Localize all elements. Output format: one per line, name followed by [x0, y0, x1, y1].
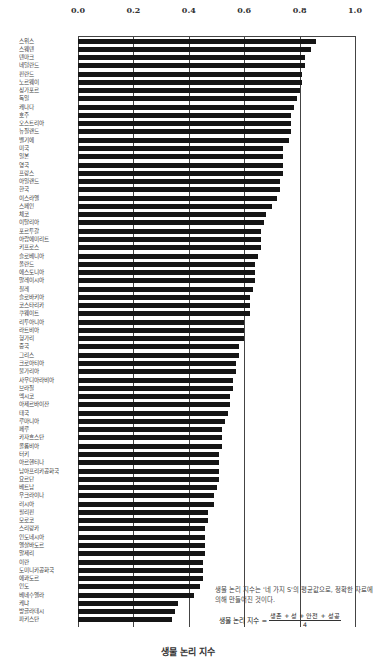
formula-lhs: 생물 논리 지수 = [219, 615, 267, 625]
category-label: 요르단 [0, 475, 74, 483]
category-label: 칠레 [0, 285, 74, 293]
bar [78, 328, 244, 333]
category-label: 말레이시아 [0, 276, 74, 284]
category-label: 캐나다 [0, 103, 74, 111]
bar [78, 80, 302, 85]
category-label: 에스토니아 [0, 268, 74, 276]
bar [78, 320, 244, 325]
category-label: 사우디아라비아 [0, 376, 74, 384]
x-tick-label: 1.0 [348, 5, 362, 15]
x-tick-label: 0.0 [71, 5, 85, 15]
bar [78, 601, 178, 606]
bar [78, 353, 239, 358]
bar [78, 129, 291, 134]
category-label: 스리랑카 [0, 524, 74, 532]
category-label: 알제리 [0, 549, 74, 557]
category-label: 덴마크 [0, 53, 74, 61]
category-label: 스위스 [0, 37, 74, 45]
category-label: 엘살바도르 [0, 541, 74, 549]
bar [78, 485, 217, 490]
category-label: 리투아니아 [0, 318, 74, 326]
bar [78, 229, 261, 234]
bar [78, 220, 264, 225]
category-label: 호주 [0, 111, 74, 119]
bar [78, 560, 203, 565]
bar [78, 146, 283, 151]
category-label: 뉴질랜드 [0, 127, 74, 135]
category-label: 영국 [0, 161, 74, 169]
bar [78, 452, 219, 457]
bar [78, 526, 205, 531]
category-label: 브라질 [0, 384, 74, 392]
category-label: 중국 [0, 342, 74, 350]
category-label: 라트비아 [0, 326, 74, 334]
bar [78, 204, 272, 209]
bar [78, 39, 316, 44]
bar [78, 386, 233, 391]
bar [78, 262, 255, 267]
category-label: 페루 [0, 425, 74, 433]
bar [78, 584, 200, 589]
gridline [300, 36, 301, 627]
bar [78, 278, 255, 283]
category-label: 그리스 [0, 351, 74, 359]
category-label: 오스트리아 [0, 119, 74, 127]
bar [78, 518, 208, 523]
category-label: 포르투갈 [0, 227, 74, 235]
category-label: 멕시코 [0, 392, 74, 400]
category-label: 핀란드 [0, 70, 74, 78]
category-label: 키프로스 [0, 243, 74, 251]
bar [78, 121, 291, 126]
bar [78, 287, 253, 292]
category-label: 에콰도르 [0, 574, 74, 582]
category-label: 코스타리카 [0, 301, 74, 309]
category-label: 쿠웨이트 [0, 309, 74, 317]
formula-fraction: 생존 + 성 + 안전 + 성공 4 [269, 611, 340, 628]
category-label: 콜롬비아 [0, 442, 74, 450]
bar [78, 295, 250, 300]
bar [78, 212, 266, 217]
category-label: 방글라데시 [0, 607, 74, 615]
bar [78, 460, 219, 465]
category-label: 싱가포르 [0, 86, 74, 94]
category-label: 폴란드 [0, 260, 74, 268]
category-label: 불가리아 [0, 367, 74, 375]
category-label: 이란 [0, 558, 74, 566]
bar [78, 196, 277, 201]
x-tick-label: 0.2 [126, 5, 140, 15]
annotation-note: 생물 논리 지수는 '네 가지 S'의 평균값으로, 정확한 자료에 의해 만들… [215, 585, 375, 605]
category-label: 한국 [0, 185, 74, 193]
bar [78, 311, 250, 316]
category-label: 카자흐스탄 [0, 433, 74, 441]
category-label: 태국 [0, 409, 74, 417]
category-label: 헝가리 [0, 334, 74, 342]
x-tick-label: 0.8 [293, 5, 307, 15]
category-label: 아일랜드 [0, 177, 74, 185]
category-label: 도미니카공화국 [0, 566, 74, 574]
category-label: 루마니아 [0, 417, 74, 425]
bar [78, 510, 208, 515]
bar [78, 361, 236, 366]
bar [78, 245, 261, 250]
category-label: 모로코 [0, 516, 74, 524]
category-label: 인도 [0, 582, 74, 590]
bar [78, 493, 214, 498]
category-label: 터키 [0, 450, 74, 458]
category-label: 독일 [0, 94, 74, 102]
bar [78, 609, 175, 614]
bar [78, 303, 250, 308]
category-label: 아제르바이잔 [0, 400, 74, 408]
category-label: 슬로베니아 [0, 252, 74, 260]
category-label: 우크라이나 [0, 491, 74, 499]
formula-numerator: 생존 + 성 + 안전 + 성공 [269, 611, 340, 621]
bar [78, 617, 172, 622]
category-label: 노르웨이 [0, 78, 74, 86]
bar [78, 477, 219, 482]
bar [78, 469, 219, 474]
bar [78, 171, 283, 176]
bar [78, 369, 236, 374]
category-label: 베네수엘라 [0, 591, 74, 599]
bar [78, 154, 283, 159]
bar [78, 502, 214, 507]
